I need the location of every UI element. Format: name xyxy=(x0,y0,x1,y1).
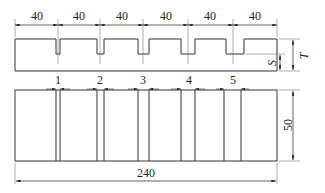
plan-view xyxy=(15,90,277,161)
slot-label: 2 xyxy=(97,73,103,87)
slotted-block-outline xyxy=(15,39,277,71)
slot-label: 4 xyxy=(186,73,192,87)
dim-label-spacing: 40 xyxy=(249,9,261,23)
dim-label-slot-depth: S xyxy=(265,60,279,66)
extension-lines xyxy=(15,19,300,71)
dim-label-spacing: 40 xyxy=(31,9,43,23)
elevation-view xyxy=(15,39,277,71)
technical-drawing: 40 40 40 40 40 40 T S 1 2 3 xyxy=(0,0,325,193)
dim-label-spacing: 40 xyxy=(116,9,128,23)
thickness-dimensions xyxy=(280,40,293,70)
dim-label-spacing: 40 xyxy=(160,9,172,23)
dim-label-spacing: 40 xyxy=(73,9,85,23)
dim-label-spacing: 40 xyxy=(204,9,216,23)
dim-label-total-thickness: T xyxy=(297,51,311,59)
slot-label: 1 xyxy=(55,73,61,87)
dim-label-length: 240 xyxy=(137,166,155,180)
slot-label: 5 xyxy=(230,73,236,87)
slot-label: 3 xyxy=(140,73,146,87)
plan-outline xyxy=(15,90,277,161)
dim-label-width: 50 xyxy=(281,119,295,131)
